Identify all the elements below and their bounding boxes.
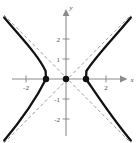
y-tick-label-minus1: -1 (54, 96, 60, 104)
point-center-origin (63, 76, 69, 82)
x-tick-label-minus2: -2 (23, 84, 29, 92)
x-tick-label-2: 2 (104, 84, 108, 92)
point-right-vertex (83, 76, 89, 82)
hyperbola-figure: -2 2 2 1 -1 -2 x y (0, 0, 139, 143)
y-tick-label-2: 2 (57, 36, 61, 44)
y-axis-arrowhead (63, 9, 70, 16)
y-axis-label: y (68, 4, 73, 12)
x-axis-arrowhead (120, 76, 128, 83)
x-axis-label: x (129, 76, 134, 84)
y-tick-label-1: 1 (57, 56, 61, 64)
point-left-vertex (43, 76, 49, 82)
hyperbola-plot-svg: -2 2 2 1 -1 -2 x y (0, 0, 139, 143)
y-tick-label-minus2: -2 (54, 116, 60, 124)
